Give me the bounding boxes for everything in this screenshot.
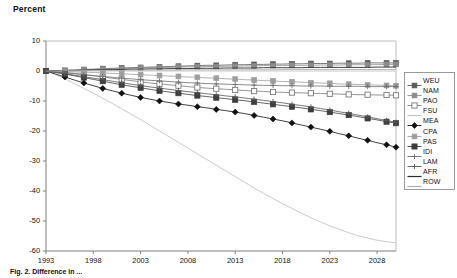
y-tick-label: -40 — [0, 186, 40, 195]
y-tick-label: -50 — [0, 216, 40, 225]
y-tick-label: -60 — [0, 246, 40, 255]
legend-marker-icon — [407, 116, 422, 125]
legend-marker-icon — [407, 76, 422, 85]
legend-item-cpa[interactable]: CPA — [407, 126, 454, 136]
legend-label: MEA — [422, 117, 438, 124]
legend-marker-icon — [407, 147, 422, 156]
legend-label: CPA — [422, 128, 437, 135]
legend-label: PAS — [422, 138, 437, 145]
series-lam — [43, 68, 398, 125]
legend-marker-icon — [407, 86, 422, 95]
x-tick-label: 2028 — [363, 256, 391, 265]
x-tick-label: 2008 — [174, 256, 202, 265]
y-tick-label: -20 — [0, 126, 40, 135]
series-pas — [43, 68, 398, 125]
x-tick-label: 1993 — [32, 256, 60, 265]
legend-item-weu[interactable]: WEU — [407, 75, 454, 85]
x-tick-label: 2023 — [316, 256, 344, 265]
legend-marker-icon — [407, 127, 422, 136]
legend-label: FSU — [422, 107, 437, 114]
legend-item-fsu[interactable]: FSU — [407, 106, 454, 116]
series-cpa — [44, 69, 399, 89]
legend-label: WEU — [422, 77, 440, 84]
legend-item-afr[interactable]: AFR — [407, 167, 454, 177]
figure-caption: Fig. 2. Difference in ... — [10, 268, 82, 278]
legend-label: AFR — [422, 168, 437, 175]
legend-label: ROW — [422, 178, 440, 185]
legend-item-pao[interactable]: PAO — [407, 95, 454, 105]
legend-item-idi[interactable]: IDI — [407, 146, 454, 156]
legend-label: IDI — [422, 148, 432, 155]
legend-marker-icon — [407, 157, 422, 166]
legend-label: LAM — [422, 158, 438, 165]
legend-item-lam[interactable]: LAM — [407, 157, 454, 167]
x-tick-label: 2013 — [221, 256, 249, 265]
x-tick-label: 2003 — [127, 256, 155, 265]
legend-item-mea[interactable]: MEA — [407, 116, 454, 126]
x-tick-label: 1998 — [79, 256, 107, 265]
legend-marker-icon — [407, 106, 422, 115]
legend-item-nam[interactable]: NAM — [407, 85, 454, 95]
y-tick-label: 10 — [0, 36, 40, 45]
legend-item-pas[interactable]: PAS — [407, 136, 454, 146]
legend-marker-icon — [407, 96, 422, 105]
legend-label: NAM — [422, 87, 439, 94]
y-tick-label: -30 — [0, 156, 40, 165]
legend-item-row[interactable]: ROW — [407, 177, 454, 187]
y-tick-label: -10 — [0, 96, 40, 105]
x-tick-label: 2018 — [268, 256, 296, 265]
legend-marker-icon — [407, 177, 422, 186]
y-tick-label: 0 — [0, 66, 40, 75]
chart-plot-area — [0, 0, 457, 278]
legend-label: PAO — [422, 97, 438, 104]
chart-legend: WEUNAMPAOFSUMEACPAPASIDILAMAFRROW — [404, 72, 455, 190]
series-fsu — [46, 71, 396, 243]
legend-marker-icon — [407, 137, 422, 146]
chart-figure: Percent WEUNAMPAOFSUMEACPAPASIDILAMAFRRO… — [0, 0, 457, 278]
legend-marker-icon — [407, 167, 422, 176]
